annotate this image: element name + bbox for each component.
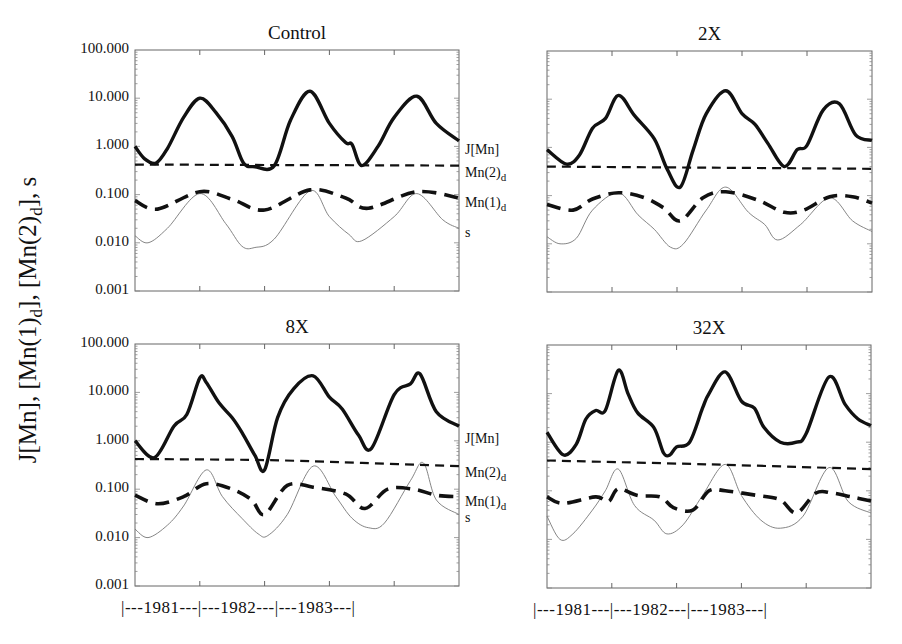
series-mn-2-d-line <box>547 461 871 470</box>
panel-title: 8X <box>135 316 459 338</box>
y-tick-label: 10.000 <box>59 382 129 399</box>
figure: J[Mn], [Mn(1)d], [Mn(2)d], s Control100.… <box>0 0 902 644</box>
x-axis-years: |---1981---|---1982---|---1983---| <box>121 598 465 618</box>
series-label-s: s <box>465 510 470 526</box>
y-tick-label: 0.001 <box>59 576 129 593</box>
series-s-line <box>547 464 871 540</box>
series-label-mn-1-d: Mn(1)d <box>465 494 506 512</box>
series-label-mn-2-d: Mn(2)d <box>465 465 506 483</box>
y-tick-label: 0.100 <box>59 479 129 496</box>
plot-frame <box>547 51 872 292</box>
y-tick-label: 0.010 <box>59 233 129 250</box>
series-mn-2-d-line <box>135 459 459 466</box>
series-mn-1-d-line <box>135 483 459 514</box>
y-tick-label: 0.100 <box>59 185 129 202</box>
series-mn-2-d-line <box>547 167 872 169</box>
series-j-mn--line <box>547 370 871 456</box>
series-s-line <box>135 462 459 537</box>
plot-frame <box>547 345 871 588</box>
series-mn-2-d-line <box>135 165 459 166</box>
series-j-mn--line <box>135 373 459 472</box>
y-tick-label: 1.000 <box>59 136 129 153</box>
panel-title: Control <box>135 22 459 44</box>
series-label-j-mn-: J[Mn] <box>465 431 499 447</box>
y-tick-label: 10.000 <box>59 88 129 105</box>
y-tick-label: 0.001 <box>59 281 129 298</box>
series-mn-1-d-line <box>547 489 871 513</box>
series-j-mn--line <box>547 91 872 188</box>
y-tick-label: 100.000 <box>59 334 129 351</box>
panel-32x <box>547 345 871 588</box>
panel-2x <box>547 51 872 292</box>
panel-8x <box>135 344 459 586</box>
series-label-mn-1-d: Mn(1)d <box>465 195 506 213</box>
panel-title: 2X <box>547 23 872 45</box>
y-tick-label: 1.000 <box>59 431 129 448</box>
panel-control <box>135 50 459 291</box>
series-label-s: s <box>465 225 470 241</box>
x-axis-years: |---1981---|---1982---|---1983---| <box>533 600 877 620</box>
series-label-mn-2-d: Mn(2)d <box>465 165 506 183</box>
panel-title: 32X <box>547 317 871 339</box>
series-label-j-mn-: J[Mn] <box>465 142 499 158</box>
series-j-mn--line <box>135 91 459 169</box>
y-tick-label: 100.000 <box>59 40 129 57</box>
y-tick-label: 0.010 <box>59 528 129 545</box>
plot-frame <box>135 50 459 291</box>
